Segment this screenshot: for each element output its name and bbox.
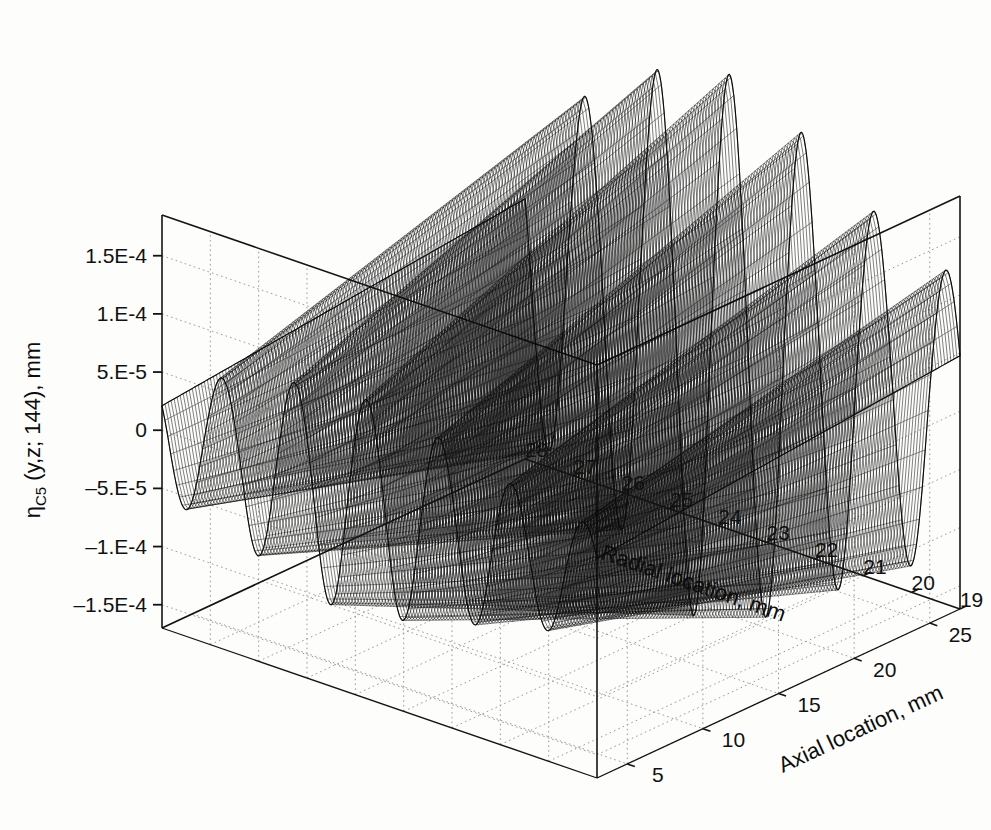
zaxis-title: ηC5 (y,z; 144), mm (20, 342, 49, 519)
tick-label-axial-4: 25 (949, 623, 972, 646)
tick-label-z-5: –1.E-4 (85, 535, 147, 558)
tick-label-z-4: –5.E-5 (85, 476, 147, 499)
axes-edge-floor-back-left (162, 628, 597, 778)
zaxis-title-text: ηC5 (y,z; 144), mm (20, 342, 49, 519)
tick-label-radial-9: 19 (960, 588, 983, 611)
tick-label-radial-4: 24 (718, 505, 742, 528)
tick-label-z-6: –1.5E-4 (73, 593, 147, 616)
tick-mark-axial (627, 764, 635, 767)
tick-label-radial-6: 22 (815, 538, 838, 561)
tick-label-radial-8: 20 (912, 571, 935, 594)
tick-label-radial-5: 23 (767, 521, 790, 544)
tick-label-radial-1: 27 (573, 455, 596, 478)
tick-label-z-3: 0 (135, 418, 147, 441)
tick-label-z-1: 1.E-4 (97, 302, 148, 325)
mesh-surface (162, 70, 960, 631)
tick-label-axial-2: 15 (797, 693, 820, 716)
figure-3d-surface-plot: 1.5E-41.E-45.E-50–5.E-5–1.E-4–1.5E-42827… (0, 0, 991, 830)
tick-label-axial-1: 10 (722, 728, 745, 751)
tick-mark-axial (779, 694, 787, 697)
tick-label-radial-7: 21 (863, 555, 886, 578)
tick-mark-axial (930, 623, 938, 626)
tick-label-radial-0: 28 (525, 438, 548, 461)
tick-mark-axial (854, 658, 862, 661)
tick-label-z-2: 5.E-5 (97, 360, 147, 383)
tick-mark-axial (703, 729, 711, 732)
tick-label-z-0: 1.5E-4 (85, 244, 147, 267)
gridline-z-back-left (162, 605, 597, 755)
tick-label-axial-3: 20 (873, 658, 896, 681)
gridline-floor-axial (192, 614, 627, 764)
tick-label-radial-2: 26 (622, 471, 645, 494)
tick-label-radial-3: 25 (670, 488, 693, 511)
tick-label-axial-0: 5 (652, 763, 664, 786)
surface-plot-canvas: 1.5E-41.E-45.E-50–5.E-5–1.E-4–1.5E-42827… (0, 0, 991, 830)
